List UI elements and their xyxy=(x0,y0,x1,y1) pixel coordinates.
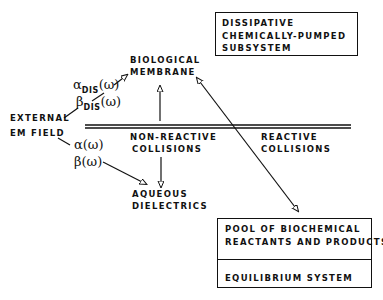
box-line: REACTANTS AND PRODUCTS xyxy=(225,236,371,249)
reactive-collisions-label: REACTIVE COLLISIONS xyxy=(261,131,331,155)
box-line: EQUILIBRIUM SYSTEM xyxy=(225,272,371,285)
aqueous-dielectrics-label: AQUEOUS DIELECTRICS xyxy=(132,188,208,212)
equilibrium-section: EQUILIBRIUM SYSTEM xyxy=(218,260,371,285)
box-line: POOL OF BIOCHEMICAL xyxy=(225,223,371,236)
dissipative-subsystem-box: DISSIPATIVE CHEMICALLY-PUMPED SUBSYSTEM xyxy=(215,12,358,56)
biochemical-pool-section: POOL OF BIOCHEMICAL REACTANTS AND PRODUC… xyxy=(218,219,371,260)
beta-coefficient: β(ω) xyxy=(74,155,102,169)
box-line: CHEMICALLY-PUMPED xyxy=(222,30,357,43)
alpha-coefficient: α(ω) xyxy=(74,138,104,152)
equilibrium-system-box: POOL OF BIOCHEMICAL REACTANTS AND PRODUC… xyxy=(217,218,372,288)
non-reactive-collisions-label: NON-REACTIVE COLLISIONS xyxy=(130,131,217,155)
biological-membrane-label: BIOLOGICAL MEMBRANE xyxy=(130,54,201,78)
beta-dis-coefficient: βDIS(ω) xyxy=(76,95,121,115)
box-line: DISSIPATIVE xyxy=(222,17,357,30)
box-line: SUBSYSTEM xyxy=(222,42,357,55)
external-em-field-label: EXTERNAL EM FIELD xyxy=(10,111,70,141)
